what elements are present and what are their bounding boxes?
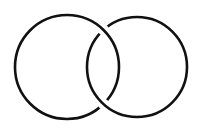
- diagram-canvas: [0, 0, 198, 128]
- interlocking-rings-diagram: [0, 0, 198, 128]
- right-ring: [87, 17, 187, 117]
